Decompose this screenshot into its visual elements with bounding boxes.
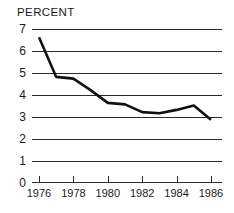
- x-axis-tick-marks: [40, 176, 212, 183]
- x-axis-tick-label: 1986: [199, 187, 223, 199]
- y-axis-tick-label: 2: [19, 132, 26, 146]
- y-axis-tick-label: 3: [19, 110, 26, 124]
- y-axis-tick-label: 4: [19, 88, 26, 102]
- y-axis-tick-labels: 01234567: [19, 22, 26, 190]
- chart-container: PERCENT 01234567 19761978198019821984198…: [0, 0, 234, 213]
- x-axis-tick-label: 1976: [27, 187, 51, 199]
- x-axis-tick-labels: 197619781980198219841986: [27, 187, 223, 199]
- gridlines: [32, 30, 222, 162]
- x-axis-tick-label: 1984: [164, 187, 188, 199]
- data-series-line: [39, 37, 211, 120]
- y-axis-tick-label: 7: [19, 22, 26, 36]
- x-axis-tick-label: 1982: [130, 187, 154, 199]
- y-axis-tick-label: 5: [19, 66, 26, 80]
- x-axis-tick-label: 1978: [61, 187, 85, 199]
- x-axis-tick-label: 1980: [96, 187, 120, 199]
- y-axis-tick-label: 0: [19, 176, 26, 190]
- y-axis-tick-label: 1: [19, 154, 26, 168]
- y-axis-tick-label: 6: [19, 44, 26, 58]
- line-chart-plot: 01234567 197619781980198219841986: [0, 0, 234, 213]
